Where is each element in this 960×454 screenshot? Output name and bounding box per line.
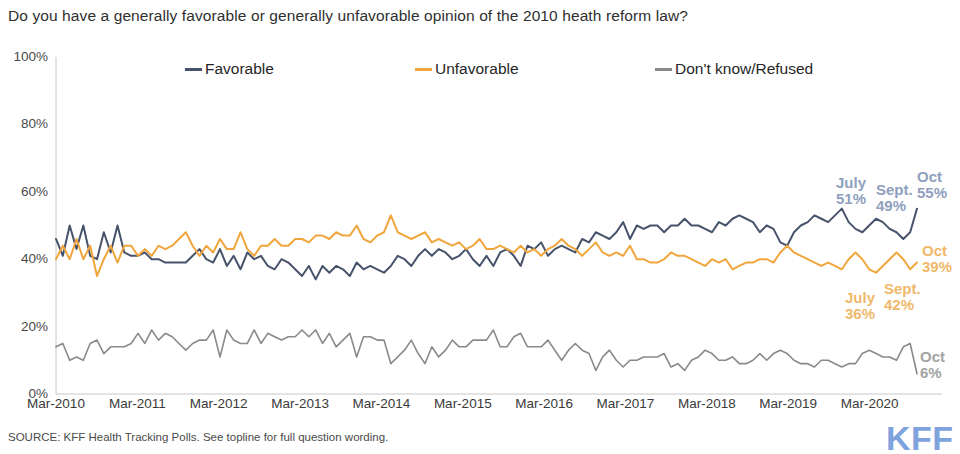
annotation-favorable: Sept.49%: [876, 182, 913, 214]
annotation-value: 51%: [836, 191, 866, 207]
annotation-value: 55%: [917, 185, 947, 201]
annotation-period: Sept.: [884, 281, 921, 297]
y-tick-label: 60%: [2, 184, 48, 199]
x-tick-label: Mar-2019: [748, 396, 828, 411]
annotation-value: 42%: [884, 297, 921, 313]
chart-container: Do you have a generally favorable or gen…: [0, 0, 960, 454]
annotation-period: Oct: [920, 349, 945, 365]
annotation-value: 49%: [876, 198, 913, 214]
annotation-favorable: Oct55%: [917, 169, 947, 201]
series-line-favorable: [56, 209, 917, 280]
annotation-period: Oct: [922, 243, 952, 259]
y-tick-label: 80%: [2, 116, 48, 131]
annotation-value: 39%: [922, 259, 952, 275]
annotation-unfavorable: Oct39%: [922, 243, 952, 275]
x-tick-label: Mar-2015: [423, 396, 503, 411]
source-note: SOURCE: KFF Health Tracking Polls. See t…: [8, 431, 388, 443]
annotation-period: Sept.: [876, 182, 913, 198]
kff-logo: KFF: [886, 422, 960, 454]
x-tick-label: Mar-2011: [97, 396, 177, 411]
plot-area: [0, 0, 960, 454]
annotation-unfavorable: Sept.42%: [884, 281, 921, 313]
x-tick-label: Mar-2014: [341, 396, 421, 411]
annotation-unfavorable: July36%: [845, 290, 875, 322]
annotation-favorable: July51%: [836, 175, 866, 207]
annotation-don-t-know-refused: Oct6%: [920, 349, 945, 381]
y-tick-label: 100%: [2, 49, 48, 64]
y-tick-label: 40%: [2, 251, 48, 266]
annotation-period: July: [836, 175, 866, 191]
annotation-period: Oct: [917, 169, 947, 185]
series-layer: [56, 209, 917, 374]
x-tick-label: Mar-2012: [179, 396, 259, 411]
series-line-don-t-know-refused: [56, 330, 917, 374]
annotation-value: 6%: [920, 365, 945, 381]
annotation-period: July: [845, 290, 875, 306]
x-tick-label: Mar-2016: [504, 396, 584, 411]
x-tick-label: Mar-2013: [260, 396, 340, 411]
x-tick-label: Mar-2010: [16, 396, 96, 411]
x-tick-label: Mar-2018: [667, 396, 747, 411]
x-tick-label: Mar-2020: [830, 396, 910, 411]
y-tick-label: 20%: [2, 319, 48, 334]
x-tick-label: Mar-2017: [585, 396, 665, 411]
series-line-unfavorable: [56, 215, 917, 276]
annotation-value: 36%: [845, 306, 875, 322]
